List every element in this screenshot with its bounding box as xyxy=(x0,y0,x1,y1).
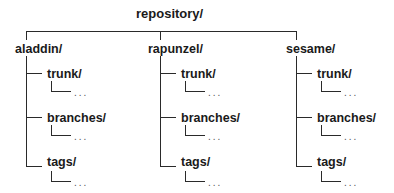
sub-connector xyxy=(185,81,186,91)
child-label-branches: branches/ xyxy=(47,111,106,125)
child-label-branches: branches/ xyxy=(317,111,376,125)
ellipsis: ... xyxy=(344,89,358,97)
child-label-tags: tags/ xyxy=(47,155,76,169)
project-label-sesame: sesame/ xyxy=(286,42,335,56)
child-label-tags: tags/ xyxy=(317,155,346,169)
ellipsis: ... xyxy=(344,133,358,141)
sub-connector xyxy=(321,91,341,92)
sub-connector xyxy=(185,171,186,181)
sub-connector xyxy=(185,91,205,92)
rapunzel-drop xyxy=(160,31,161,40)
ellipsis: ... xyxy=(208,133,222,141)
branch-connector xyxy=(26,166,42,167)
ellipsis: ... xyxy=(208,179,222,187)
project-label-aladdin: aladdin/ xyxy=(15,42,62,56)
branch-connector xyxy=(160,73,176,74)
ellipsis: ... xyxy=(74,133,88,141)
sub-connector xyxy=(321,171,322,181)
aladdin-drop xyxy=(26,31,27,40)
sub-connector xyxy=(51,125,52,135)
branch-connector xyxy=(26,117,42,118)
branch-connector xyxy=(296,166,312,167)
branch-connector xyxy=(296,73,312,74)
child-label-branches: branches/ xyxy=(181,111,240,125)
branch-connector xyxy=(26,73,42,74)
ellipsis: ... xyxy=(208,89,222,97)
branch-connector xyxy=(296,117,312,118)
sub-connector xyxy=(321,81,322,91)
repository-tree-diagram: repository/ aladdin/ trunk/ ... branches… xyxy=(0,0,394,193)
branch-connector xyxy=(160,117,176,118)
sub-connector xyxy=(51,91,71,92)
sub-connector xyxy=(321,181,341,182)
sub-connector xyxy=(185,125,186,135)
sub-connector xyxy=(51,135,71,136)
child-label-trunk: trunk/ xyxy=(317,67,352,81)
branch-connector xyxy=(160,166,176,167)
sub-connector xyxy=(51,171,52,181)
ellipsis: ... xyxy=(74,179,88,187)
sub-connector xyxy=(51,181,71,182)
root-label: repository/ xyxy=(136,7,203,21)
sub-connector xyxy=(185,181,205,182)
sub-connector xyxy=(51,81,52,91)
root-connector xyxy=(26,31,297,32)
ellipsis: ... xyxy=(344,179,358,187)
sub-connector xyxy=(185,135,205,136)
child-label-trunk: trunk/ xyxy=(181,67,216,81)
child-label-tags: tags/ xyxy=(181,155,210,169)
sesame-drop xyxy=(296,31,297,40)
sub-connector xyxy=(321,125,322,135)
child-label-trunk: trunk/ xyxy=(47,67,82,81)
sub-connector xyxy=(321,135,341,136)
project-label-rapunzel: rapunzel/ xyxy=(148,42,203,56)
ellipsis: ... xyxy=(74,89,88,97)
